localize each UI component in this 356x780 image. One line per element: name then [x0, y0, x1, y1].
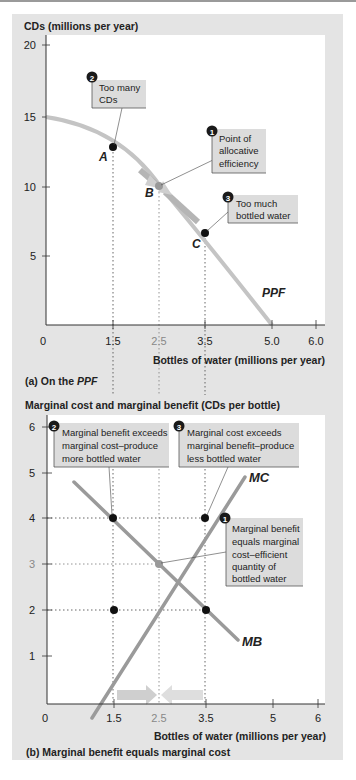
point-a [109, 143, 117, 151]
svg-text:bottled water: bottled water [232, 573, 286, 584]
x-tick-label: 6 [315, 712, 321, 724]
arrow-right-icon [117, 690, 147, 700]
svg-text:2: 2 [52, 423, 57, 432]
callout-1-b: 1 Marginal benefit equals marginal cost–… [220, 513, 304, 587]
mc-label: MC [249, 470, 270, 485]
y-tick-label: 1 [29, 650, 35, 662]
callout-3-a: 3 Too much bottled water [223, 192, 299, 224]
y-tick-label: 4 [29, 512, 35, 524]
y-axis-title-a: CDs (millions per year) [24, 20, 138, 32]
point-mb-1-5 [109, 514, 117, 522]
arrow-left-icon [171, 690, 203, 700]
svg-text:1: 1 [223, 515, 228, 524]
svg-text:less bottled water: less bottled water [187, 453, 261, 464]
callout-3-b: 3 Marginal cost exceeds marginal benefit… [174, 421, 300, 468]
svg-text:Too much: Too much [236, 198, 277, 209]
y-tick-label: 20 [24, 39, 36, 51]
x-axis-title-a: Bottles of water (millions per year) [153, 354, 325, 366]
y-tick-label: 2 [29, 604, 35, 616]
y-tick-label: 5 [29, 467, 35, 479]
svg-text:1: 1 [210, 128, 215, 137]
svg-text:marginal cost–produce: marginal cost–produce [62, 440, 158, 451]
x-tick-label: 6.0 [308, 335, 323, 347]
x-tick-label: 5.0 [264, 335, 279, 347]
svg-text:Marginal benefit: Marginal benefit [232, 523, 300, 534]
svg-text:Point of: Point of [219, 133, 252, 144]
y-tick-label: 6 [29, 421, 35, 433]
x-tick-label: 2.5 [151, 712, 166, 724]
y-tick-label: 5 [30, 250, 36, 262]
svg-text:quantity of: quantity of [232, 561, 276, 572]
y-tick-label: 15 [24, 111, 36, 123]
svg-text:Marginal benefit exceeds: Marginal benefit exceeds [62, 427, 168, 438]
svg-text:3: 3 [226, 194, 231, 203]
y-tick-label: 10 [24, 181, 36, 193]
panel-a: CDs (millions per year) 20 15 10 5 [24, 20, 325, 395]
y-tick-label: 3 [29, 558, 35, 570]
svg-text:equals marginal: equals marginal [232, 536, 299, 547]
svg-text:Too many: Too many [99, 82, 140, 93]
x-tick-label: 3.5 [198, 712, 213, 724]
x-tick-label: 3.5 [197, 335, 212, 347]
svg-text:bottled water: bottled water [236, 210, 290, 221]
x-tick-label: 2.5 [151, 335, 166, 347]
svg-text:Marginal cost exceeds: Marginal cost exceeds [187, 427, 282, 438]
y-axis-title-b: Marginal cost and marginal benefit (CDs … [25, 399, 280, 411]
svg-text:CDs: CDs [99, 94, 118, 105]
svg-text:marginal benefit–produce: marginal benefit–produce [187, 440, 294, 451]
svg-text:cost–efficient: cost–efficient [232, 549, 288, 560]
svg-text:more bottled water: more bottled water [62, 453, 141, 464]
caption-b: (b) Marginal benefit equals marginal cos… [26, 746, 231, 758]
mb-label: MB [242, 634, 262, 649]
point-b [155, 182, 163, 190]
point-a-label: A [98, 150, 108, 164]
svg-text:3: 3 [177, 423, 182, 432]
x-tick-label: 0 [40, 335, 46, 347]
figure-svg: CDs (millions per year) 20 15 10 5 [0, 0, 356, 780]
point-mc-1-5 [110, 606, 118, 614]
callout-1-a: 1 Point of allocative efficiency [207, 126, 267, 174]
point-b-label: B [145, 186, 154, 200]
caption-a: (a) On the PPF [25, 375, 98, 387]
svg-text:allocative: allocative [219, 145, 259, 156]
callout-2-b: 2 Marginal benefit exceeds marginal cost… [49, 421, 170, 468]
point-efficient [155, 560, 163, 568]
ppf-label: PPF [262, 286, 286, 300]
x-tick-label: 0 [42, 712, 48, 724]
x-axis-title-b: Bottles of water (millions per year) [154, 730, 326, 742]
point-mb-3-5 [202, 606, 210, 614]
panel-b: Marginal cost and marginal benefit (CDs … [25, 399, 326, 758]
x-tick-label: 1.5 [105, 335, 120, 347]
svg-text:2: 2 [90, 74, 95, 83]
x-tick-label: 1.5 [106, 712, 121, 724]
x-tick-label: 5 [270, 712, 276, 724]
point-c-label: C [192, 237, 201, 251]
svg-text:efficiency: efficiency [219, 158, 259, 169]
point-mc-3-5 [201, 514, 209, 522]
